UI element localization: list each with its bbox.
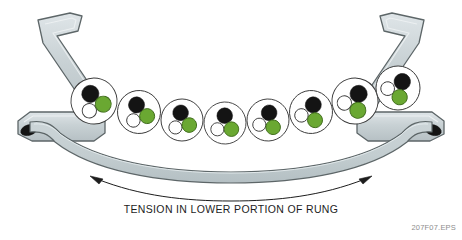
black-inner-dot xyxy=(217,108,233,124)
grain-cell-5 xyxy=(244,96,292,144)
rung-tension-figure: TENSION IN LOWER PORTION OF RUNG 207F07.… xyxy=(0,0,462,240)
tension-arrow-head-right xyxy=(359,176,372,184)
grain-cell-2 xyxy=(112,85,167,140)
green-inner-dot xyxy=(224,122,239,137)
white-inner-dot xyxy=(211,123,225,137)
grain-cell-6 xyxy=(284,85,338,139)
tension-arrow-head-left xyxy=(90,176,103,184)
grain-cell-3 xyxy=(157,95,206,144)
diagram-canvas xyxy=(0,0,462,240)
grain-cell-4 xyxy=(203,101,246,144)
